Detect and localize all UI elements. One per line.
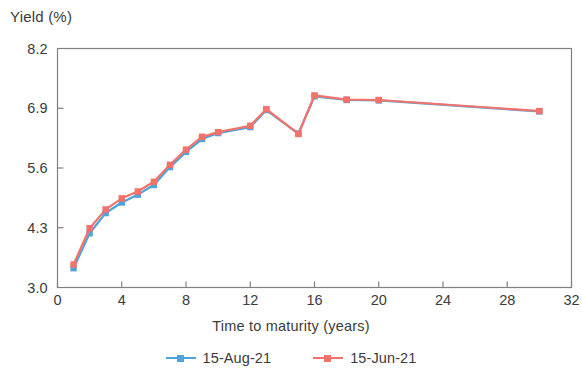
series-marker <box>343 96 349 102</box>
legend-entry[interactable]: 15-Aug-21 <box>166 350 272 366</box>
legend-swatch <box>166 352 196 364</box>
chart-legend: 15-Aug-2115-Jun-21 <box>0 350 582 366</box>
series-line <box>74 95 540 264</box>
series-marker <box>376 97 382 103</box>
legend-label: 15-Aug-21 <box>203 350 272 366</box>
series-marker <box>119 195 125 201</box>
plot-frame <box>58 49 572 288</box>
yield-curve-chart: Yield (%) 3.04.35.66.98.2 04812162024283… <box>0 0 582 377</box>
x-tick-label: 4 <box>102 292 142 308</box>
series-marker <box>151 179 157 185</box>
series-marker <box>86 225 92 231</box>
series-marker <box>135 188 141 194</box>
axis-ticks <box>58 108 572 287</box>
x-tick-label: 8 <box>166 292 206 308</box>
series-marker <box>70 261 76 267</box>
series-marker <box>215 129 221 135</box>
series-marker <box>167 162 173 168</box>
series-marker <box>247 123 253 129</box>
legend-label: 15-Jun-21 <box>350 350 416 366</box>
series-marker <box>536 108 542 114</box>
x-tick-label: 16 <box>295 292 335 308</box>
y-tick-label: 6.9 <box>6 100 48 116</box>
series-marker <box>263 106 269 112</box>
x-tick-label: 24 <box>423 292 463 308</box>
x-tick-label: 20 <box>359 292 399 308</box>
data-series-group <box>70 92 542 271</box>
data-series <box>70 92 542 268</box>
x-tick-label: 28 <box>487 292 527 308</box>
legend-entry[interactable]: 15-Jun-21 <box>313 350 416 366</box>
series-marker <box>102 206 108 212</box>
legend-swatch <box>313 352 343 364</box>
y-tick-label: 5.6 <box>6 160 48 176</box>
series-marker <box>311 92 317 98</box>
series-marker <box>183 146 189 152</box>
series-line <box>74 96 540 268</box>
legend-marker <box>324 355 331 362</box>
y-axis-title: Yield (%) <box>10 8 72 25</box>
x-tick-label: 32 <box>552 292 582 308</box>
y-tick-label: 8.2 <box>6 41 48 57</box>
series-marker <box>295 131 301 137</box>
y-tick-label: 4.3 <box>6 220 48 236</box>
data-series <box>70 93 542 271</box>
axis-frame <box>58 49 572 288</box>
x-tick-label: 0 <box>38 292 78 308</box>
x-tick-label: 12 <box>230 292 270 308</box>
series-marker <box>199 134 205 140</box>
legend-marker <box>177 355 184 362</box>
x-axis-title: Time to maturity (years) <box>0 318 582 334</box>
